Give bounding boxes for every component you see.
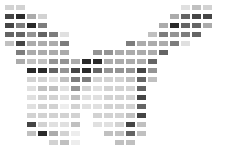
- mosaic-cell: [38, 95, 47, 100]
- mosaic-cell: [126, 122, 135, 127]
- mosaic-cell: [60, 95, 69, 100]
- mosaic-cell: [49, 32, 58, 37]
- mosaic-cell: [60, 59, 69, 64]
- mosaic-cell: [38, 50, 47, 55]
- mosaic-cell: [38, 23, 47, 28]
- mosaic-cell: [170, 23, 179, 28]
- mosaic-cell: [137, 68, 146, 73]
- mosaic-cell: [192, 32, 201, 37]
- mosaic-cell: [27, 68, 36, 73]
- mosaic-cell: [104, 122, 113, 127]
- mosaic-cell: [137, 59, 146, 64]
- mosaic-cell: [137, 104, 146, 109]
- mosaic-cell: [181, 41, 190, 46]
- mosaic-cell: [115, 122, 124, 127]
- mosaic-cell: [38, 131, 47, 136]
- mosaic-cell: [148, 68, 157, 73]
- mosaic-cell: [104, 68, 113, 73]
- mosaic-cell: [38, 41, 47, 46]
- mosaic-cell: [192, 23, 201, 28]
- mosaic-cell: [93, 86, 102, 91]
- mosaic-cell: [126, 95, 135, 100]
- mosaic-cell: [27, 86, 36, 91]
- mosaic-cell: [27, 113, 36, 118]
- mosaic-cell: [159, 23, 168, 28]
- mosaic-cell: [148, 59, 157, 64]
- mosaic-cell: [27, 122, 36, 127]
- mosaic-cell: [104, 86, 113, 91]
- mosaic-cell: [170, 14, 179, 19]
- mosaic-cell: [137, 77, 146, 82]
- mosaic-cell: [49, 131, 58, 136]
- mosaic-cell: [16, 32, 25, 37]
- mosaic-cell: [71, 122, 80, 127]
- mosaic-cell: [93, 68, 102, 73]
- mosaic-cell: [137, 86, 146, 91]
- mosaic-cell: [148, 41, 157, 46]
- mosaic-cell: [49, 68, 58, 73]
- mosaic-cell: [126, 50, 135, 55]
- mosaic-cell: [27, 14, 36, 19]
- mosaic-cell: [104, 59, 113, 64]
- mosaic-cell: [115, 95, 124, 100]
- mosaic-cell: [126, 104, 135, 109]
- mosaic-cell: [49, 59, 58, 64]
- mosaic-cell: [60, 86, 69, 91]
- mosaic-cell: [115, 104, 124, 109]
- mosaic-cell: [203, 5, 212, 10]
- mosaic-cell: [126, 140, 135, 145]
- mosaic-cell: [181, 14, 190, 19]
- mosaic-cell: [137, 50, 146, 55]
- mosaic-cell: [159, 32, 168, 37]
- mosaic-cell: [27, 59, 36, 64]
- mosaic-cell: [159, 41, 168, 46]
- mosaic-cell: [126, 77, 135, 82]
- mosaic-cell: [115, 140, 124, 145]
- mosaic-cell: [137, 131, 146, 136]
- mosaic-cell: [60, 32, 69, 37]
- mosaic-cell: [137, 95, 146, 100]
- mosaic-cell: [38, 104, 47, 109]
- pixel-mosaic-figure: [0, 0, 226, 148]
- mosaic-cell: [27, 77, 36, 82]
- mosaic-cell: [126, 131, 135, 136]
- mosaic-cell: [104, 104, 113, 109]
- mosaic-cell: [71, 68, 80, 73]
- mosaic-cell: [159, 50, 168, 55]
- mosaic-cell: [60, 131, 69, 136]
- mosaic-cell: [5, 32, 14, 37]
- mosaic-cell: [49, 140, 58, 145]
- mosaic-cell: [126, 86, 135, 91]
- mosaic-cell: [115, 86, 124, 91]
- mosaic-cell: [27, 104, 36, 109]
- mosaic-cell: [82, 86, 91, 91]
- mosaic-cell: [104, 77, 113, 82]
- mosaic-cell: [82, 104, 91, 109]
- mosaic-cell: [71, 140, 80, 145]
- mosaic-cell: [203, 14, 212, 19]
- mosaic-cell: [115, 50, 124, 55]
- mosaic-cell: [27, 50, 36, 55]
- mosaic-cell: [5, 23, 14, 28]
- mosaic-cell: [104, 95, 113, 100]
- mosaic-cell: [60, 77, 69, 82]
- mosaic-cell: [16, 14, 25, 19]
- mosaic-cell: [126, 41, 135, 46]
- mosaic-cell: [181, 32, 190, 37]
- mosaic-cell: [38, 14, 47, 19]
- mosaic-cell: [126, 113, 135, 118]
- mosaic-cell: [115, 131, 124, 136]
- mosaic-cell: [115, 113, 124, 118]
- mosaic-cell: [137, 113, 146, 118]
- mosaic-cell: [60, 140, 69, 145]
- mosaic-cell: [38, 59, 47, 64]
- mosaic-cell: [5, 14, 14, 19]
- mosaic-cell: [5, 41, 14, 46]
- mosaic-cell: [71, 59, 80, 64]
- mosaic-cell: [38, 122, 47, 127]
- mosaic-cell: [181, 23, 190, 28]
- mosaic-cell: [16, 23, 25, 28]
- mosaic-cell: [148, 32, 157, 37]
- mosaic-cell: [93, 104, 102, 109]
- mosaic-cell: [16, 41, 25, 46]
